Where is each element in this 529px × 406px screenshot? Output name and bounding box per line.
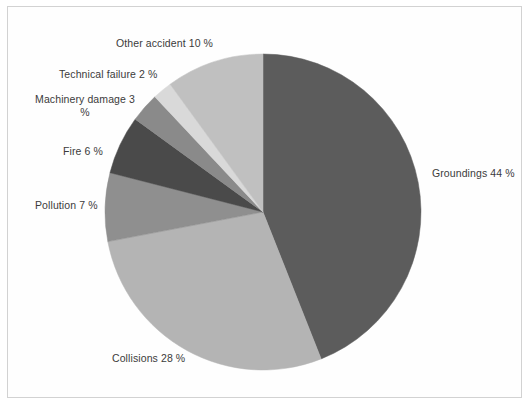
pie-chart-figure: Groundings 44 % Collisions 28 % Pollutio… bbox=[0, 0, 529, 406]
pie-label-collisions: Collisions 28 % bbox=[112, 352, 185, 365]
pie-label-other-accident: Other accident 10 % bbox=[116, 37, 213, 50]
pie-label-groundings: Groundings 44 % bbox=[432, 167, 515, 180]
pie-label-fire: Fire 6 % bbox=[63, 145, 103, 158]
pie-label-technical-failure: Technical failure 2 % bbox=[59, 68, 157, 81]
pie-label-pollution: Pollution 7 % bbox=[35, 199, 98, 212]
pie-label-machinery-damage: Machinery damage 3 % bbox=[33, 93, 137, 119]
pie-slice-group bbox=[105, 54, 421, 370]
